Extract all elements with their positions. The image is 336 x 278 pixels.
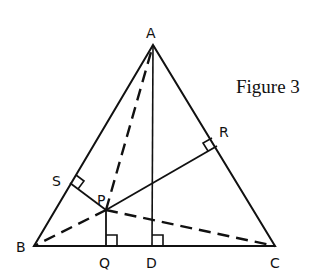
label-r: R <box>219 124 229 140</box>
right-angle-s <box>76 175 84 189</box>
triangle-figure: A B C P Q D R S Figure 3 <box>0 0 336 278</box>
segment-pr <box>106 146 217 210</box>
label-s: S <box>52 173 61 189</box>
label-d: D <box>146 255 157 271</box>
right-angle-d <box>152 235 163 246</box>
label-b: B <box>16 239 26 255</box>
label-c: C <box>270 255 280 271</box>
label-a: A <box>146 25 156 41</box>
dashed-pa <box>106 45 153 210</box>
dashed-pc <box>106 210 275 246</box>
label-p: P <box>97 192 105 208</box>
label-q: Q <box>99 255 110 271</box>
altitude-ad <box>152 45 153 246</box>
right-angle-q <box>106 235 117 246</box>
figure-caption: Figure 3 <box>236 76 300 97</box>
